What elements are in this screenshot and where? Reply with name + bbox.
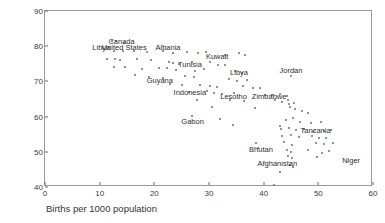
data-point	[236, 80, 238, 82]
x-tick-label: 50	[314, 189, 323, 198]
x-axis-title: Births per 1000 population	[46, 203, 157, 214]
data-point	[172, 62, 174, 64]
y-tick-label: 40	[34, 183, 43, 192]
data-point	[244, 54, 246, 56]
data-point	[281, 135, 283, 137]
point-annotation-label: Tunisia	[178, 61, 202, 69]
y-tick-label: 50	[34, 147, 43, 156]
data-point	[321, 152, 323, 154]
data-point	[252, 87, 254, 89]
data-point	[232, 124, 234, 126]
data-point	[203, 68, 205, 70]
data-point	[209, 85, 211, 87]
data-point	[114, 58, 116, 60]
data-point	[291, 144, 293, 146]
data-point	[254, 107, 256, 109]
x-tick-mark	[209, 182, 210, 185]
y-tick-label: 90	[34, 7, 43, 16]
data-point	[318, 137, 320, 139]
x-tick-label: 40	[259, 189, 268, 198]
x-tick-mark	[318, 182, 319, 185]
x-tick-mark	[263, 182, 264, 185]
data-point	[298, 136, 300, 138]
data-point	[315, 142, 317, 144]
x-tick-mark	[373, 182, 374, 185]
data-point	[166, 67, 168, 69]
data-point	[158, 67, 160, 69]
data-point	[219, 118, 221, 120]
point-annotation-label: Albania	[155, 44, 180, 52]
data-point	[292, 117, 294, 119]
plot-area: 405060708090 0102030405060 CanadaUnited …	[44, 10, 372, 186]
data-point	[168, 61, 170, 63]
y-tick-mark	[45, 46, 48, 47]
data-point	[209, 61, 211, 63]
data-point	[294, 108, 296, 110]
data-point	[259, 87, 261, 89]
y-tick-mark	[45, 116, 48, 117]
data-point	[290, 75, 292, 77]
data-point	[293, 102, 295, 104]
point-annotation-label: Bhutan	[249, 146, 273, 154]
data-point	[242, 85, 244, 87]
point-annotation-label: Libya	[92, 45, 110, 53]
point-annotation-label: Gabon	[181, 118, 204, 126]
data-point	[141, 68, 143, 70]
data-point	[290, 134, 292, 136]
data-point	[279, 171, 281, 173]
data-point	[211, 106, 213, 108]
y-tick-label: 70	[34, 77, 43, 86]
data-point	[175, 69, 177, 71]
y-tick-mark	[45, 187, 48, 188]
data-point	[307, 112, 309, 114]
data-point	[150, 59, 152, 61]
data-point	[106, 58, 108, 60]
x-tick-mark	[99, 182, 100, 185]
point-annotation-label: Tanzania	[301, 127, 331, 135]
data-point	[320, 121, 322, 123]
x-tick-label: 30	[205, 189, 214, 198]
data-point	[216, 86, 218, 88]
point-annotation-label: Zimbabwe	[252, 93, 287, 101]
point-annotation-label: Niger	[342, 157, 360, 165]
x-tick-label: 60	[369, 189, 378, 198]
data-point	[193, 76, 195, 78]
x-tick-mark	[45, 182, 46, 185]
data-point	[224, 64, 226, 66]
data-point	[288, 103, 290, 105]
data-point	[307, 149, 309, 151]
data-point	[255, 142, 257, 144]
data-point	[246, 79, 248, 81]
data-point	[113, 66, 115, 68]
data-point	[136, 58, 138, 60]
data-point	[228, 78, 230, 80]
data-point	[196, 99, 198, 101]
data-point	[287, 99, 289, 101]
y-tick-label: 60	[34, 112, 43, 121]
point-annotation-label: Indonesia	[174, 89, 207, 97]
data-point	[295, 129, 297, 131]
point-annotation-label: Lesotho	[220, 93, 247, 101]
data-point	[273, 184, 275, 186]
data-point	[328, 150, 330, 152]
data-point	[290, 151, 292, 153]
point-annotation-label: Kuwait	[206, 53, 229, 61]
point-annotation-label: Afghanistan	[258, 160, 298, 168]
y-tick-mark	[45, 11, 48, 12]
data-point	[287, 155, 289, 157]
point-annotation-label: Libya	[230, 70, 248, 78]
data-point	[184, 75, 186, 77]
point-annotation-label: Guyana	[147, 77, 173, 85]
data-point	[286, 149, 288, 151]
data-point	[289, 106, 291, 108]
data-point	[134, 74, 136, 76]
data-point	[279, 125, 281, 127]
data-point	[124, 66, 126, 68]
data-point	[299, 121, 301, 123]
data-point	[217, 64, 219, 66]
data-point	[119, 59, 121, 61]
data-point	[316, 156, 318, 158]
data-point	[181, 84, 183, 86]
y-tick-label: 80	[34, 42, 43, 51]
data-point	[194, 70, 196, 72]
